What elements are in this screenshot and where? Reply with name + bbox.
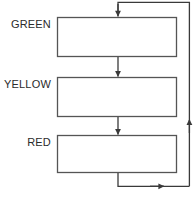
state-box-green bbox=[58, 18, 177, 57]
state-label-red: RED bbox=[0, 136, 51, 148]
state-box-red bbox=[58, 136, 177, 173]
state-label-green: GREEN bbox=[0, 18, 51, 30]
flowchart-diagram: GREEN YELLOW RED ... .. . bbox=[0, 0, 194, 197]
connector-red-loop-bottom bbox=[118, 173, 189, 186]
state-label-yellow: YELLOW bbox=[0, 78, 51, 90]
state-box-yellow bbox=[58, 78, 177, 117]
cropped-text-artifact: ... .. . bbox=[2, 191, 54, 196]
